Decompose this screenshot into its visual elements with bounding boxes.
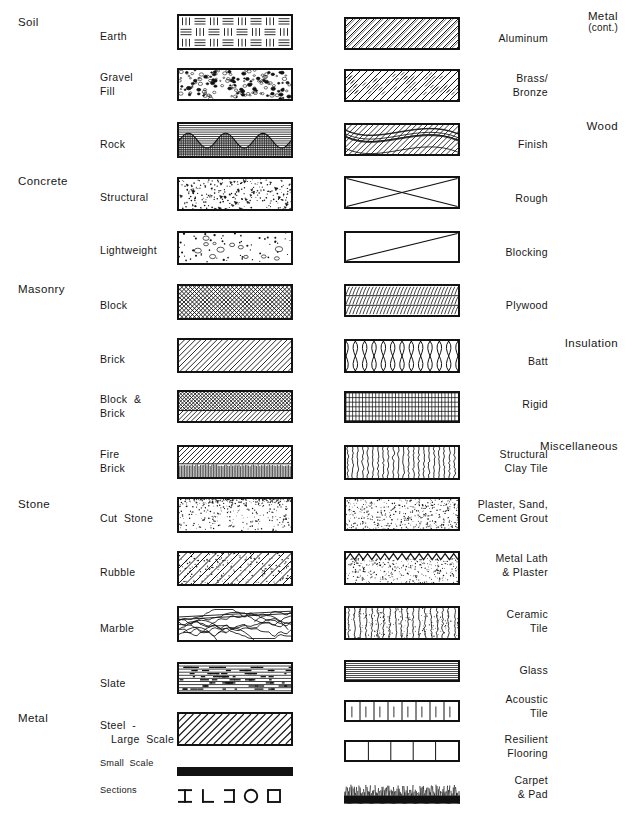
material-label-carpet-pad: Carpet & Pad bbox=[514, 774, 548, 801]
material-label-plaster-sand-cement-grout: Plaster, Sand, Cement Grout bbox=[478, 498, 548, 525]
material-label-text: Slate bbox=[100, 677, 126, 689]
material-swatch-plaster-sand-cement-grout bbox=[344, 497, 460, 531]
material-label-wood-rough: Rough bbox=[515, 192, 548, 206]
material-label-text: Block & Brick bbox=[100, 393, 141, 419]
material-label-text: Gravel Fill bbox=[100, 71, 133, 97]
material-swatch-block-and-brick bbox=[177, 390, 293, 423]
material-label-text: Finish bbox=[518, 138, 548, 150]
material-label-text: Cut Stone bbox=[100, 512, 153, 524]
category-sublabel: (cont.) bbox=[588, 22, 618, 33]
material-label-text: Batt bbox=[528, 355, 548, 367]
material-label-text: Plaster, Sand, Cement Grout bbox=[478, 498, 548, 524]
material-swatch-wood-finish bbox=[344, 123, 460, 156]
material-label-text: Rubble bbox=[100, 566, 135, 578]
material-label-ceramic-tile: Ceramic Tile bbox=[506, 608, 548, 635]
material-swatch-slate bbox=[177, 662, 293, 694]
material-label-block: Block bbox=[100, 299, 127, 313]
category-header-metal-cont: Metal(cont.) bbox=[588, 10, 618, 33]
category-header-miscellaneous: Miscellaneous bbox=[540, 440, 618, 452]
material-swatch-fire-brick bbox=[177, 445, 293, 479]
material-label-brick: Brick bbox=[100, 353, 125, 367]
material-label-glass: Glass bbox=[519, 664, 548, 678]
category-header-wood: Wood bbox=[587, 120, 618, 132]
material-label-metal-lath-plaster: Metal Lath & Plaster bbox=[495, 552, 548, 579]
material-label-text: Rigid bbox=[522, 398, 548, 410]
material-label-structural-concrete: Structural bbox=[100, 191, 148, 205]
material-label-text: Plywood bbox=[506, 299, 548, 311]
material-label-text: Steel - bbox=[100, 719, 136, 731]
material-label-text: Lightweight bbox=[100, 244, 157, 256]
category-label: Masonry bbox=[18, 283, 65, 295]
material-label-text: Rock bbox=[100, 138, 125, 150]
material-swatch-plywood bbox=[344, 284, 460, 317]
materials-chart-sheet: SoilConcreteMasonryStoneMetalMetal(cont.… bbox=[0, 0, 636, 821]
material-label-text: Fire Brick bbox=[100, 448, 125, 474]
material-label-acoustic-tile: Acoustic Tile bbox=[506, 693, 548, 720]
material-label-text: Small Scale bbox=[100, 758, 153, 768]
material-label-text: Metal Lath & Plaster bbox=[495, 552, 548, 578]
material-label-plywood: Plywood bbox=[506, 299, 548, 313]
material-label-slate: Slate bbox=[100, 677, 126, 691]
material-swatch-aluminum bbox=[344, 17, 460, 50]
material-label-text: Sections bbox=[100, 785, 137, 795]
material-label-text: Aluminum bbox=[499, 32, 548, 44]
material-label-cut-stone: Cut Stone bbox=[100, 512, 153, 526]
material-label-text: Rough bbox=[515, 192, 548, 204]
material-swatch-steel-large-scale bbox=[177, 712, 293, 746]
material-swatch-gravel-fill bbox=[177, 68, 293, 101]
material-label-text: Brass/ Bronze bbox=[513, 72, 548, 98]
material-swatch-glass bbox=[344, 660, 460, 682]
material-swatch-rock bbox=[177, 122, 293, 158]
category-label: Stone bbox=[18, 498, 50, 510]
material-label-marble: Marble bbox=[100, 622, 134, 636]
material-label-fire-brick: Fire Brick bbox=[100, 448, 125, 475]
material-swatch-wood-rough bbox=[344, 176, 460, 209]
material-label-text: Block bbox=[100, 299, 127, 311]
category-label: Wood bbox=[587, 120, 618, 132]
category-header-stone: Stone bbox=[18, 498, 50, 510]
material-label-block-and-brick: Block & Brick bbox=[100, 393, 141, 420]
material-swatch-structural-concrete bbox=[177, 177, 293, 211]
material-label-text: Ceramic Tile bbox=[506, 608, 548, 634]
material-swatch-steel-small-scale bbox=[177, 767, 293, 776]
category-header-metal: Metal bbox=[18, 712, 48, 724]
category-label: Insulation bbox=[565, 337, 618, 349]
material-label-text: Earth bbox=[100, 30, 127, 42]
material-label-text: Structural bbox=[100, 191, 148, 203]
material-swatch-steel-sections bbox=[177, 785, 293, 807]
material-swatch-block bbox=[177, 284, 293, 320]
category-header-insulation: Insulation bbox=[565, 337, 618, 349]
material-swatch-metal-lath-plaster bbox=[344, 551, 460, 585]
material-swatch-insulation-rigid bbox=[344, 391, 460, 423]
material-swatch-brass-bronze bbox=[344, 69, 460, 102]
material-label-text: Marble bbox=[100, 622, 134, 634]
material-swatch-earth bbox=[177, 14, 293, 50]
material-label-steel-sections: Sections bbox=[100, 784, 137, 798]
category-header-soil: Soil bbox=[18, 16, 39, 28]
material-label-structural-clay-tile: Structural Clay Tile bbox=[500, 448, 548, 475]
category-label: Metal bbox=[588, 10, 618, 22]
material-label-text: Resilient Flooring bbox=[505, 733, 548, 759]
category-label: Concrete bbox=[18, 175, 68, 187]
material-label-text: Brick bbox=[100, 353, 125, 365]
material-swatch-marble bbox=[177, 606, 293, 642]
material-label-aluminum: Aluminum bbox=[499, 32, 548, 46]
category-label: Soil bbox=[18, 16, 39, 28]
material-swatch-wood-blocking bbox=[344, 231, 460, 263]
material-swatch-resilient-flooring bbox=[344, 740, 460, 762]
category-header-concrete: Concrete bbox=[18, 175, 68, 187]
material-label-text: Carpet & Pad bbox=[514, 774, 548, 800]
material-label-lightweight-concrete: Lightweight bbox=[100, 244, 157, 258]
material-label-text: Blocking bbox=[506, 246, 549, 258]
material-label-insulation-rigid: Rigid bbox=[522, 398, 548, 412]
material-label-wood-blocking: Blocking bbox=[506, 246, 549, 260]
material-swatch-brick bbox=[177, 338, 293, 373]
category-header-masonry: Masonry bbox=[18, 283, 65, 295]
material-swatch-rubble bbox=[177, 551, 293, 586]
material-label-rock: Rock bbox=[100, 138, 125, 152]
material-label-earth: Earth bbox=[100, 30, 127, 44]
material-swatch-structural-clay-tile bbox=[344, 445, 460, 480]
material-swatch-cut-stone bbox=[177, 497, 293, 533]
material-label-brass-bronze: Brass/ Bronze bbox=[513, 72, 548, 99]
material-swatch-ceramic-tile bbox=[344, 606, 460, 640]
